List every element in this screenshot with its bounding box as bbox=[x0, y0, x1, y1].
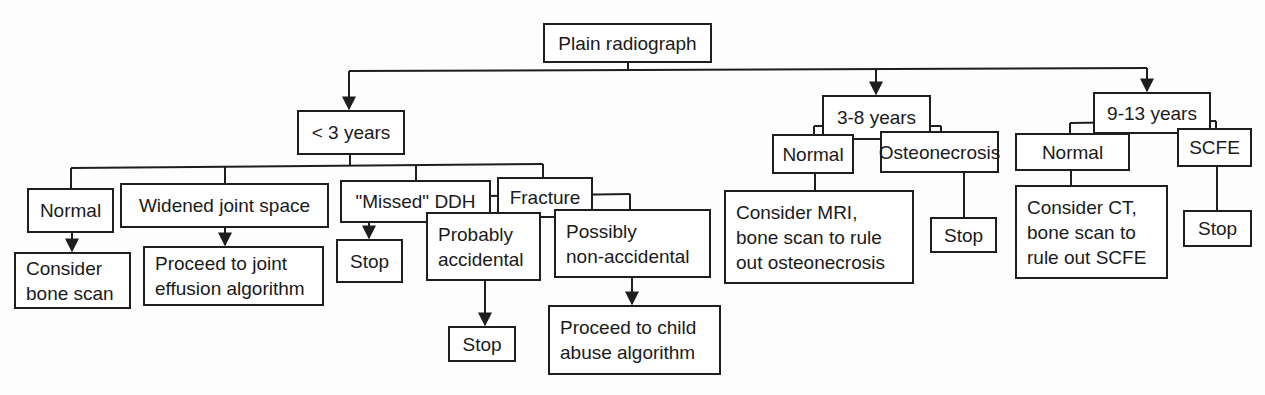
node-scfe: SCFE bbox=[1177, 128, 1252, 167]
node-lt3-normal: Normal bbox=[27, 188, 114, 233]
node-child-abuse-algorithm: Proceed to child abuse algorithm bbox=[548, 305, 721, 375]
node-osteonecrosis-stop: Stop bbox=[930, 217, 997, 253]
node-3-8-normal: Normal bbox=[772, 134, 854, 174]
node-probably-accidental: Probably accidental bbox=[426, 212, 541, 281]
node-9-13-normal: Normal bbox=[1015, 133, 1130, 171]
node-consider-mri: Consider MRI, bone scan to rule out oste… bbox=[724, 190, 914, 284]
node-ddh-stop: Stop bbox=[336, 239, 403, 283]
node-consider-ct: Consider CT, bone scan to rule out SCFE bbox=[1015, 185, 1168, 279]
node-joint-effusion-algorithm: Proceed to joint effusion algorithm bbox=[143, 246, 324, 306]
node-widened-joint-space: Widened joint space bbox=[120, 183, 329, 228]
node-possibly-non-accidental: Possibly non-accidental bbox=[554, 209, 711, 278]
node-consider-bone-scan: Consider bone scan bbox=[14, 252, 131, 309]
node-osteonecrosis: Osteonecrosis bbox=[880, 131, 999, 173]
node-age-under-3: < 3 years bbox=[297, 110, 405, 155]
node-accidental-stop: Stop bbox=[448, 326, 516, 362]
node-plain-radiograph: Plain radiograph bbox=[543, 23, 712, 63]
node-scfe-stop: Stop bbox=[1183, 210, 1252, 247]
